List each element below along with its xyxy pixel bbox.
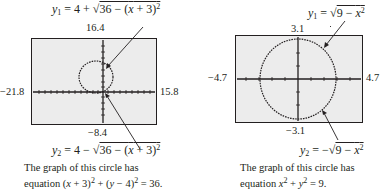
right-caption-line1: The graph of this circle has bbox=[240, 162, 355, 174]
right-y2-equation: y2 = −√9 − x2 bbox=[300, 143, 364, 158]
right-ymin-label: −3.1 bbox=[286, 125, 305, 136]
right-caption-line2: equation x2 + y2 = 9. bbox=[240, 175, 326, 190]
